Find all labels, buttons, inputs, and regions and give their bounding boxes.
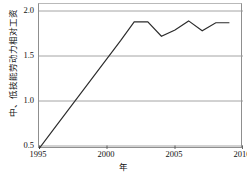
chart-figure: 中、低技能劳动力相对工资 年 0.5 1.0 1.5 2.0 1995 2000… — [0, 0, 247, 172]
x-tick-label-1: 2000 — [86, 150, 126, 159]
x-tick-label-3: 2010 — [222, 150, 247, 159]
data-line-series-0 — [39, 21, 229, 149]
plot-area — [38, 3, 242, 148]
gridlines — [39, 11, 243, 146]
plot-svg — [39, 4, 243, 149]
x-tick-label-2: 2005 — [154, 150, 194, 159]
x-tick-label-0: 1995 — [18, 150, 58, 159]
